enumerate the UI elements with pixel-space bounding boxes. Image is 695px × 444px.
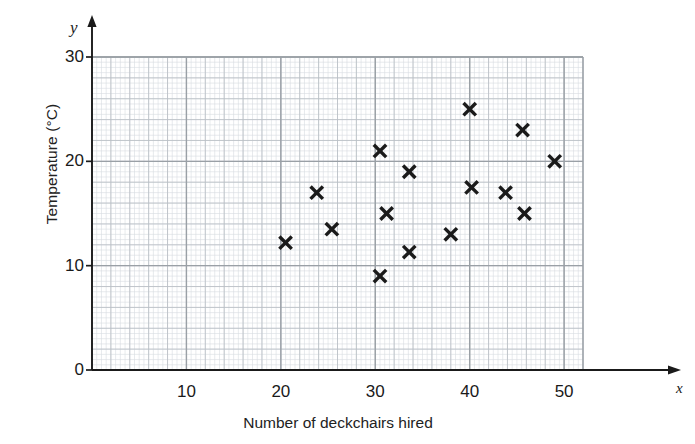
y-axis-arrowhead xyxy=(87,15,96,27)
x-axis-arrowhead xyxy=(668,365,681,374)
scatter-chart: y x Temperature (°C) Number of deckchair… xyxy=(0,0,695,444)
plot-area xyxy=(0,0,695,444)
